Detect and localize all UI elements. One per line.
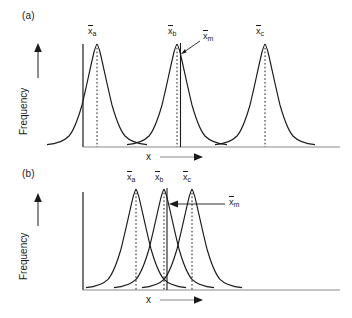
x-bar-glyph: x — [88, 26, 93, 36]
mean-label-xc-b: xc — [183, 172, 191, 182]
x-bar-subscript: c — [188, 176, 192, 183]
mean-label-xc-a: xc — [256, 26, 264, 36]
mean-label-xa-b: xa — [127, 172, 135, 182]
mean-label-xb-a: xb — [168, 26, 176, 36]
x-bar-glyph: x — [168, 26, 173, 36]
x-bar-subscript: m — [234, 201, 240, 208]
x-bar-subscript: a — [132, 176, 136, 183]
mean-label-xm-a: xm — [203, 31, 213, 41]
x-bar-subscript: b — [173, 30, 177, 37]
x-axis-label-b: x — [146, 294, 151, 305]
x-bar-glyph: x — [155, 172, 160, 182]
x-bar-glyph: x — [203, 31, 208, 41]
x-bar-glyph: x — [127, 172, 132, 182]
mean-label-xb-b: xb — [155, 172, 163, 182]
x-axis-arrow-a — [160, 153, 203, 161]
figure-canvas: (a) Frequency — [0, 0, 352, 318]
y-axis-arrow-b — [34, 193, 42, 226]
plot-vectors — [0, 0, 352, 318]
mean-label-xm-b: xm — [229, 197, 239, 207]
axes-panel-b — [83, 192, 340, 290]
x-bar-subscript: c — [261, 30, 265, 37]
x-bar-subscript: a — [93, 30, 97, 37]
x-bar-glyph: x — [183, 172, 188, 182]
y-axis-label-b: Frequency — [18, 233, 29, 280]
panel-label-b: (b) — [22, 168, 35, 179]
x-bar-subscript: b — [160, 176, 164, 183]
xm-callout-arrow-a — [181, 41, 200, 54]
x-bar-subscript: m — [208, 35, 214, 42]
x-bar-glyph: x — [256, 26, 261, 36]
x-axis-label-a: x — [146, 151, 151, 162]
mean-label-xa-a: xa — [88, 26, 96, 36]
y-axis-arrow-a — [34, 43, 42, 78]
x-axis-arrow-b — [160, 296, 203, 304]
x-bar-glyph: x — [229, 197, 234, 207]
markers-panel-b — [136, 188, 192, 290]
